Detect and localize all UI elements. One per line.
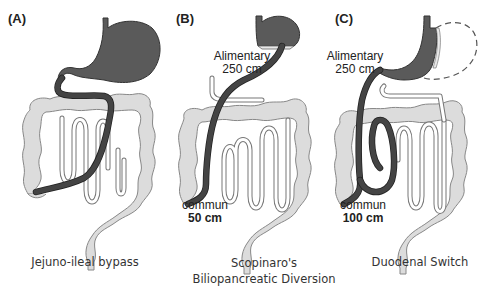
common-label-b: commun	[182, 198, 228, 212]
common-label-c: commun	[340, 198, 386, 212]
common-length-c: 100 cm	[343, 211, 384, 225]
panel-b-label: (B)	[176, 11, 194, 26]
bariatric-procedures-diagram: (A) Jejuno-ileal bypass (B)	[0, 0, 498, 302]
alimentary-length-b: 250 cm	[222, 62, 261, 76]
panel-b: (B) Alimentary 250 cm commun 50 cm Scopi…	[176, 11, 335, 286]
colon-b-shape	[179, 99, 312, 274]
caption-c: Duodenal Switch	[372, 255, 469, 269]
stomach-a	[58, 18, 160, 82]
sleeve-stomach-c	[378, 16, 437, 80]
colon-a	[23, 94, 156, 270]
colon-a-shape	[23, 94, 156, 270]
alimentary-label-b: Alimentary	[214, 49, 271, 63]
stomach-b	[256, 16, 300, 46]
caption-b-line1: Scopinaro's	[231, 256, 297, 270]
panel-a: (A) Jejuno-ileal bypass	[8, 11, 160, 270]
alimentary-length-c: 250 cm	[335, 62, 374, 76]
small-bowel-loops-a	[62, 118, 124, 202]
alimentary-label-c: Alimentary	[327, 49, 384, 63]
panel-a-label: (A)	[8, 11, 26, 26]
panel-c-label: (C)	[335, 11, 353, 26]
caption-b-line2: Biliopancreatic Diversion	[193, 272, 336, 286]
common-length-b: 50 cm	[188, 211, 222, 225]
caption-a: Jejuno-ileal bypass	[30, 255, 138, 269]
panel-c: (C) Alimentary 250 cm commun 100 cm Duod…	[327, 11, 477, 274]
